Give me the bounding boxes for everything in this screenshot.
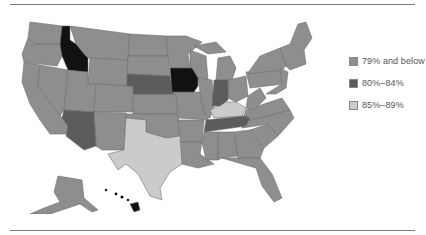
state-kansas	[133, 94, 178, 114]
legend-swatch-high	[349, 101, 358, 110]
legend-item-79-below: 79% and below	[349, 56, 425, 66]
state-arkansas	[178, 120, 204, 142]
state-south-dakota	[127, 56, 170, 76]
state-new-mexico	[94, 112, 126, 150]
state-mississippi	[202, 132, 218, 160]
legend-label: 79% and below	[362, 56, 425, 66]
state-hawaii	[105, 189, 140, 212]
legend-swatch-mid	[349, 79, 358, 88]
state-florida	[222, 158, 282, 202]
state-nebraska	[127, 74, 174, 94]
legend-item-80-84: 80%–84%	[349, 78, 425, 88]
state-wyoming	[88, 58, 128, 86]
state-ohio	[228, 76, 248, 102]
bottom-rule	[10, 230, 415, 231]
state-washington	[28, 22, 62, 44]
state-arizona	[62, 110, 96, 150]
legend-swatch-low	[349, 57, 358, 66]
state-new-england	[280, 22, 312, 70]
state-alaska	[30, 176, 98, 214]
legend-label: 80%–84%	[362, 78, 404, 88]
state-tennessee	[204, 116, 250, 132]
legend-item-85-89: 85%–89%	[349, 100, 425, 110]
state-iowa	[170, 68, 198, 92]
legend-label: 85%–89%	[362, 100, 404, 110]
state-indiana	[212, 80, 228, 106]
state-colorado	[94, 84, 134, 112]
top-rule	[10, 4, 415, 5]
map-legend: 79% and below 80%–84% 85%–89%	[349, 56, 425, 122]
state-michigan	[216, 56, 236, 80]
state-north-dakota	[128, 34, 168, 56]
us-choropleth-map	[10, 14, 330, 214]
